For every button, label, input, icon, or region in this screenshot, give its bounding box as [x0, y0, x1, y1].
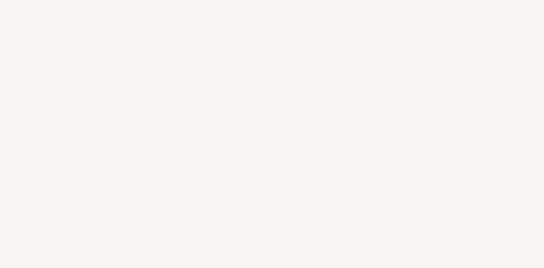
court-svg	[0, 0, 544, 268]
court-diagram	[0, 0, 544, 268]
